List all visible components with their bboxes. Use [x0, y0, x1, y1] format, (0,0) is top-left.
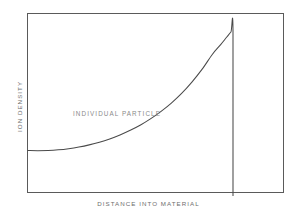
plot-area [0, 0, 297, 218]
curve-annotation-label: INDIVIDUAL PARTICLE [73, 110, 161, 117]
bragg-curve-figure: ION DENSITY DISTANCE INTO MATERIAL INDIV… [0, 0, 297, 218]
plot-frame [27, 13, 283, 192]
x-axis-label: DISTANCE INTO MATERIAL [0, 200, 297, 207]
ion-density-curve [28, 18, 234, 196]
y-axis-label: ION DENSITY [16, 81, 23, 132]
